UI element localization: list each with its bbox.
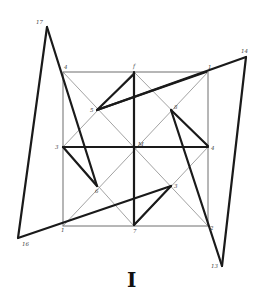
path-14-13: [222, 57, 246, 266]
label-3-left: 3: [55, 144, 59, 150]
label-4-top: 4: [63, 64, 68, 70]
label-2: 2: [209, 225, 214, 231]
label-8: 8: [174, 104, 178, 110]
label-3-inner: 3: [174, 183, 178, 189]
magic-square-path-diagram: 17 4 5 f 1 14 8 3 M 4 6 3 1 7 2 16 13: [0, 0, 254, 290]
label-17: 17: [36, 19, 43, 25]
label-4-right: 4: [210, 145, 215, 151]
label-5: 5: [90, 107, 94, 113]
path-17-16: [18, 27, 47, 238]
label-6: 6: [95, 188, 99, 194]
label-14: 14: [241, 48, 248, 54]
label-1-top: 1: [208, 64, 212, 70]
label-13: 13: [211, 263, 218, 269]
label-f: f: [132, 63, 136, 70]
label-M: M: [137, 141, 144, 147]
label-1-bottom: 1: [61, 227, 65, 233]
label-16: 16: [22, 241, 29, 247]
path-5-14: [97, 57, 246, 110]
label-7: 7: [133, 228, 137, 234]
figure-caption: I: [127, 268, 136, 290]
